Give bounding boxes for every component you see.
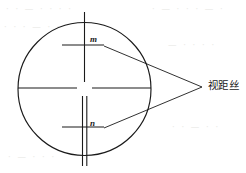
- callout-label-stadia-hairs: 视距丝: [208, 80, 239, 91]
- leader-line-upper: [104, 46, 202, 87]
- label-m: m: [90, 35, 97, 44]
- figure-root: · · — · · · · · — · · · — · · · · — · · …: [0, 0, 246, 173]
- leader-line-lower: [104, 87, 202, 128]
- label-n: n: [90, 119, 95, 128]
